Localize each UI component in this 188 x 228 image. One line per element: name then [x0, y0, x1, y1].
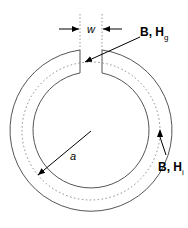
gap-field-label: B, Hg — [140, 25, 168, 42]
radius-label: a — [70, 150, 76, 162]
radius-arrow — [38, 131, 91, 175]
toroid-diagram: w B, Hg a B, Hi — [0, 0, 188, 228]
core-field-arrowhead — [157, 129, 163, 137]
core-field-label: B, Hi — [158, 160, 184, 177]
gap-width-label: w — [87, 23, 96, 35]
core-field-pointer — [160, 137, 166, 155]
gap-field-arrow — [85, 37, 140, 62]
core-inner-edge — [33, 73, 149, 188]
core-outer-edge — [10, 50, 172, 211]
